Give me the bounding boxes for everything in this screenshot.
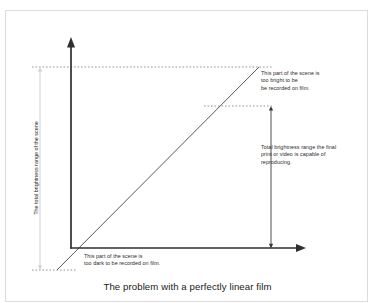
y-axis-label: The total brightness range of the scene [33, 83, 39, 253]
print-range-bracket [269, 106, 273, 248]
annotation-printable-range: Total brightness range the final print o… [261, 144, 365, 166]
figure-container: This part of the scene is too bright to … [0, 0, 375, 303]
figure-caption: The problem with a perfectly linear film [0, 281, 375, 292]
annotation-too-dark: This part of the scene is too dark to be… [84, 253, 208, 268]
annotation-too-bright: This part of the scene is too bright to … [261, 70, 359, 92]
y-axis [67, 37, 75, 249]
film-response-line [57, 67, 259, 270]
